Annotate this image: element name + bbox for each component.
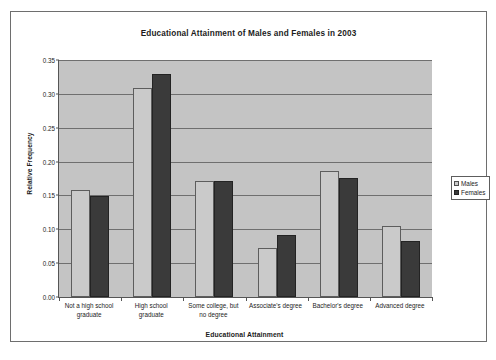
x-axis-label-line: Not a high school [58,302,120,311]
x-axis-label-line: no degree [182,311,244,320]
y-tick-label: 0.20 [43,158,55,165]
y-tick-label: 0.30 [43,90,55,97]
x-tick-mark [432,297,433,301]
x-tick-mark [59,297,60,301]
x-axis-label: Advanced degree [369,302,431,311]
bar-males[interactable] [195,181,214,297]
x-axis-label: Bachelor's degree [307,302,369,311]
x-axis-label: Not a high schoolgraduate [58,302,120,319]
bar-group [59,60,121,297]
bar-females[interactable] [339,178,358,297]
chart-legend: MalesFemales [451,176,490,200]
chart-title: Educational Attainment of Males and Fema… [11,29,486,38]
bar-females[interactable] [277,235,296,297]
legend-swatch-icon [454,190,459,195]
bar-males[interactable] [71,190,90,297]
bar-males[interactable] [320,171,339,297]
x-axis-label-line: Associate's degree [245,302,307,311]
x-axis-label-line: graduate [58,311,120,320]
chart-frame: Educational Attainment of Males and Fema… [10,11,487,342]
x-tick-mark [246,297,247,301]
legend-label: Males [461,180,478,187]
x-tick-mark [121,297,122,301]
y-tick-label: 0.25 [43,124,55,131]
x-axis-label-line: Bachelor's degree [307,302,369,311]
x-axis-label-line: High school [120,302,182,311]
x-axis-label: Associate's degree [245,302,307,311]
bar-group [246,60,308,297]
y-tick-label: 0.15 [43,192,55,199]
legend-item-males[interactable]: Males [454,179,486,188]
bar-females[interactable] [90,196,109,297]
x-axis-label-line: Some college, but [182,302,244,311]
y-axis-title: Relative Frequency [26,119,33,209]
y-tick-label: 0.10 [43,226,55,233]
y-tick-label: 0.00 [43,294,55,301]
bar-group [308,60,370,297]
legend-swatch-icon [454,181,459,186]
x-tick-mark [183,297,184,301]
legend-label: Females [461,189,486,196]
bar-females[interactable] [401,241,420,297]
x-axis-label-line: graduate [120,311,182,320]
x-tick-mark [308,297,309,301]
legend-item-females[interactable]: Females [454,188,486,197]
y-tick-label: 0.35 [43,57,55,64]
x-axis-label: High schoolgraduate [120,302,182,319]
y-tick-label: 0.05 [43,260,55,267]
bar-males[interactable] [258,248,277,297]
x-tick-mark [370,297,371,301]
bar-males[interactable] [133,88,152,297]
bar-group [121,60,183,297]
x-axis-title: Educational Attainment [58,331,431,338]
x-axis-category-labels: Not a high schoolgraduateHigh schoolgrad… [58,302,431,328]
bars-layer [59,60,432,297]
plot-area: 0.000.050.100.150.200.250.300.35 [58,60,432,298]
bar-females[interactable] [214,181,233,297]
bar-males[interactable] [382,226,401,297]
bar-group [183,60,245,297]
x-axis-label-line: Advanced degree [369,302,431,311]
x-axis-label: Some college, butno degree [182,302,244,319]
bar-females[interactable] [152,74,171,297]
bar-group [370,60,432,297]
